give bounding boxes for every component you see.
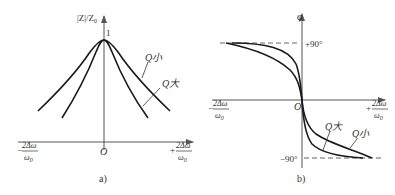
label-plus90: +90°: [305, 39, 323, 49]
origin-label-a: O: [100, 146, 107, 157]
svg-text:2Δω: 2Δω: [22, 141, 37, 150]
leader-q-large-a: [143, 88, 160, 106]
label-q-small-b: Q小: [352, 128, 370, 139]
svg-text:ω0: ω0: [215, 111, 224, 121]
svg-text:2Δω: 2Δω: [176, 141, 191, 150]
curve-q-large-a: [62, 40, 148, 118]
x-left-tick-b: − 2Δω ω0: [208, 99, 229, 121]
y-axis-label-a: |Z|/Z0: [77, 13, 97, 24]
label-minus90: −90°: [280, 154, 298, 164]
figure-a: |Z|/Z0 1 Q小 Q大 O − 2Δω ω0 + 2Δω ω0 a): [17, 13, 193, 185]
svg-text:ω0: ω0: [374, 111, 383, 121]
curve-q-small-b-upper: [226, 43, 302, 100]
caption-b: b): [297, 173, 305, 185]
y-axis-label-b: φ: [297, 11, 303, 22]
svg-text:ω0: ω0: [178, 153, 187, 163]
caption-a: a): [99, 173, 107, 185]
label-q-large-a: Q大: [162, 78, 180, 89]
peak-label: 1: [106, 28, 111, 38]
leader-q-small-b: [350, 139, 357, 148]
svg-text:+: +: [366, 103, 371, 113]
x-left-tick-a: − 2Δω ω0: [17, 141, 38, 163]
figure-canvas: |Z|/Z0 1 Q小 Q大 O − 2Δω ω0 + 2Δω ω0 a): [0, 0, 395, 195]
svg-text:ω0: ω0: [24, 153, 33, 163]
origin-label-b: O: [294, 101, 301, 112]
leader-q-small-a: [142, 62, 148, 78]
svg-text:2Δω: 2Δω: [213, 99, 228, 108]
figure-b: φ +90° −90° O Q大 Q小 − 2Δω ω0 + 2Δω ω0 b): [208, 11, 388, 185]
svg-text:2Δω: 2Δω: [372, 99, 387, 108]
x-right-tick-b: + 2Δω ω0: [366, 99, 388, 121]
label-q-large-b: Q大: [325, 121, 343, 132]
svg-text:+: +: [170, 145, 175, 155]
label-q-small-a: Q小: [145, 52, 163, 63]
x-right-tick-a: + 2Δω ω0: [170, 141, 192, 163]
